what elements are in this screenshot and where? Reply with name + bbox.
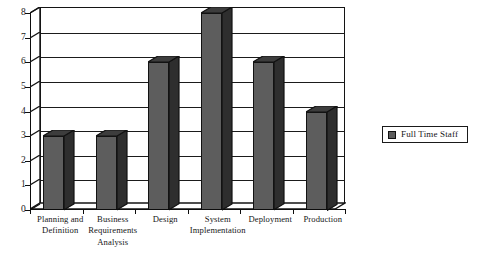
- bar-side-face: [117, 130, 127, 210]
- y-axis-tick-label: 0: [10, 205, 26, 215]
- y-axis-tick-label: 3: [10, 131, 26, 141]
- bar: [96, 130, 127, 210]
- bar-front-face: [306, 112, 327, 211]
- bar: [201, 7, 232, 210]
- plot-area: 012345678: [30, 13, 345, 210]
- x-axis-category-labels: Planning and DefinitionBusiness Requirem…: [30, 214, 345, 264]
- y-axis-tick-label: 1: [10, 181, 26, 191]
- y-axis-tick-label: 8: [10, 8, 26, 18]
- bar: [306, 106, 337, 211]
- square-swatch-icon: [388, 131, 396, 139]
- bar-side-face: [222, 7, 232, 210]
- bar-front-face: [253, 62, 274, 210]
- legend-entry-label: Full Time Staff: [401, 130, 458, 139]
- bar-side-face: [64, 130, 74, 210]
- bar-front-face: [43, 136, 64, 210]
- bar-side-face: [274, 56, 284, 210]
- x-axis-category-label: Production: [294, 214, 353, 225]
- bar-side-face: [327, 106, 337, 211]
- y-axis-tick-label: 4: [10, 107, 26, 117]
- y-axis-tick-label: 2: [10, 156, 26, 166]
- x-axis-category-label: Planning and Definition: [31, 214, 90, 237]
- bar: [253, 56, 284, 210]
- bar-side-face: [169, 56, 179, 210]
- bar: [148, 56, 179, 210]
- bar-front-face: [96, 136, 117, 210]
- bar-front-face: [148, 62, 169, 210]
- x-axis-category-label: Business Requirements Analysis: [84, 214, 143, 248]
- x-axis-category-label: Design: [136, 214, 195, 225]
- bars-layer: [30, 13, 345, 210]
- chart-legend: Full Time Staff: [382, 126, 468, 143]
- y-axis-tick-label: 6: [10, 58, 26, 68]
- bar-chart-figure: 012345678 Planning and DefinitionBusines…: [0, 0, 496, 265]
- bar: [43, 130, 74, 210]
- y-axis-tick-label: 5: [10, 82, 26, 92]
- x-axis-category-label: Deployment: [241, 214, 300, 225]
- x-axis-category-label: System Implementation: [189, 214, 248, 237]
- bar-front-face: [201, 13, 222, 210]
- y-axis-tick-label: 7: [10, 33, 26, 43]
